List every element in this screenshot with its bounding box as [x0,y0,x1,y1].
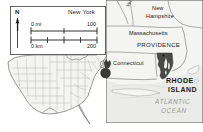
rhode-island-locator-map: N 0 mi 100 0 km 200 New York Vermont New… [0,0,203,132]
map-graphic [0,0,203,132]
regional-map-panel [107,1,203,123]
scale-inset-frame [11,7,106,55]
scale-inset-box [11,7,106,55]
location-marker-icon [100,68,110,78]
providence-city-dot [163,55,165,57]
